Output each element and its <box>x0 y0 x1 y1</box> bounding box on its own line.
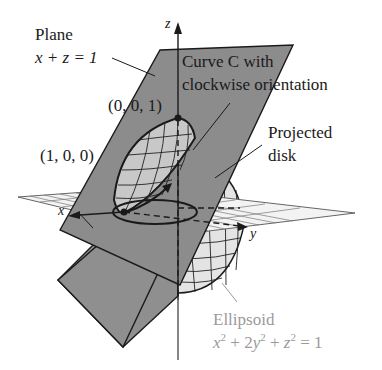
projected-disk-label-line2: disk <box>268 146 296 166</box>
x-axis-label: x <box>58 203 64 219</box>
plane-label-title: Plane <box>35 25 73 45</box>
ellipsoid-label-title: Ellipsoid <box>213 310 274 330</box>
plane-label-equation: x + z = 1 <box>35 48 98 68</box>
z-axis-label: z <box>165 16 170 32</box>
y-axis-label: y <box>250 226 256 242</box>
eq-x: x <box>213 333 221 352</box>
point-001-marker <box>175 115 182 122</box>
projected-disk-label-line1: Projected <box>268 123 332 143</box>
eq-end: = 1 <box>296 333 323 352</box>
eq-mid1: + 2 <box>226 333 253 352</box>
eq-mid2: + <box>266 333 284 352</box>
ellipsoid-label-equation: x2 + 2y2 + z2 = 1 <box>213 333 323 353</box>
point-100-label: (1, 0, 0) <box>40 146 94 166</box>
ellipsoid-plane-diagram: Plane x + z = 1 Curve C with clockwise o… <box>0 0 382 370</box>
point-001-label: (0, 0, 1) <box>108 96 162 116</box>
curve-c-label-line2: clockwise orientation <box>182 75 328 95</box>
curve-c-label-line1: Curve C with <box>182 52 274 72</box>
